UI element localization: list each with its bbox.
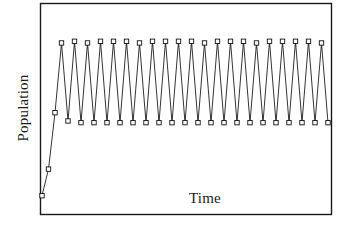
data-point-marker xyxy=(72,39,76,43)
population-time-chart: Time Population xyxy=(0,0,341,229)
data-point-marker xyxy=(150,39,154,43)
data-point-marker xyxy=(53,110,57,114)
data-point-marker xyxy=(144,120,148,124)
data-point-marker xyxy=(46,167,50,171)
data-point-marker xyxy=(189,39,193,43)
data-point-marker xyxy=(254,41,258,45)
data-point-marker xyxy=(209,120,213,124)
data-point-marker xyxy=(222,120,226,124)
data-point-marker xyxy=(267,39,271,43)
data-point-marker xyxy=(137,41,141,45)
y-axis-label: Population xyxy=(15,74,31,141)
data-point-marker xyxy=(98,39,102,43)
data-point-marker xyxy=(183,120,187,124)
data-point-marker xyxy=(326,120,330,124)
data-point-marker xyxy=(313,120,317,124)
x-axis-label: Time xyxy=(189,190,221,206)
data-point-marker xyxy=(157,120,161,124)
data-point-marker xyxy=(261,120,265,124)
data-point-marker xyxy=(306,39,310,43)
data-point-marker xyxy=(241,39,245,43)
data-point-marker xyxy=(163,39,167,43)
data-point-marker xyxy=(248,120,252,124)
data-point-marker xyxy=(59,41,63,45)
data-point-marker xyxy=(319,41,323,45)
data-point-marker xyxy=(300,120,304,124)
data-point-marker xyxy=(196,120,200,124)
data-point-marker xyxy=(92,120,96,124)
data-point-marker xyxy=(105,120,109,124)
data-point-marker xyxy=(131,120,135,124)
data-point-marker xyxy=(85,41,89,45)
data-point-marker xyxy=(215,39,219,43)
data-point-marker xyxy=(235,120,239,124)
data-point-marker xyxy=(66,119,70,123)
data-point-marker xyxy=(293,39,297,43)
data-point-marker xyxy=(124,39,128,43)
data-point-marker xyxy=(228,39,232,43)
data-point-marker xyxy=(79,120,83,124)
data-point-marker xyxy=(170,120,174,124)
data-point-marker xyxy=(118,120,122,124)
data-point-marker xyxy=(111,39,115,43)
data-point-marker xyxy=(176,39,180,43)
data-point-marker xyxy=(274,120,278,124)
data-point-marker xyxy=(202,41,206,45)
data-point-marker xyxy=(40,193,44,197)
data-point-marker xyxy=(287,120,291,124)
data-point-marker xyxy=(280,39,284,43)
